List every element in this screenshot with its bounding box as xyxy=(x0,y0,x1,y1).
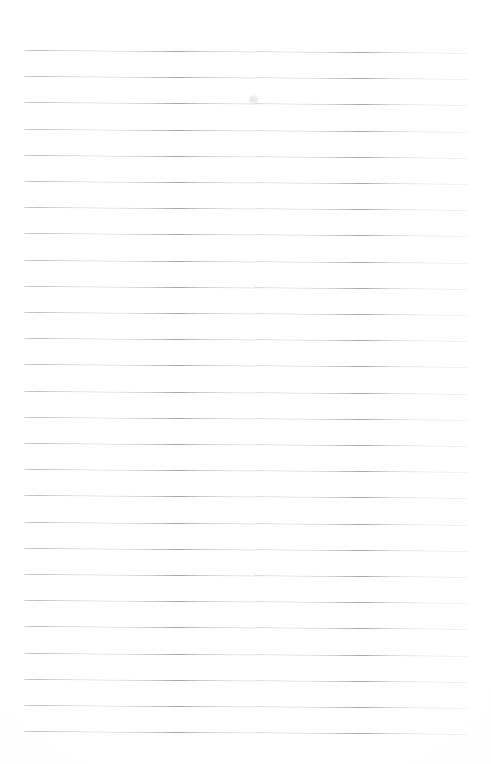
rule-line-11 xyxy=(24,312,468,316)
rule-line-17 xyxy=(24,469,468,473)
rule-line-14 xyxy=(24,391,468,395)
rule-line-9 xyxy=(24,260,468,264)
rule-line-15 xyxy=(24,417,468,421)
rule-line-25 xyxy=(24,679,468,683)
faint-smudge xyxy=(249,96,258,103)
rule-line-1 xyxy=(24,50,468,54)
rule-line-19 xyxy=(24,522,468,526)
rule-line-8 xyxy=(24,233,468,237)
rule-line-21 xyxy=(24,574,468,578)
rule-line-23 xyxy=(24,626,468,630)
ruled-lines-group xyxy=(0,0,491,764)
rule-line-24 xyxy=(24,653,468,657)
rule-line-3 xyxy=(24,102,468,106)
rule-line-13 xyxy=(24,364,468,368)
rule-line-12 xyxy=(24,338,468,342)
rule-line-2 xyxy=(24,76,468,80)
rule-line-4 xyxy=(24,129,468,133)
rule-line-16 xyxy=(24,443,468,447)
rule-line-27 xyxy=(24,731,468,735)
rule-line-26 xyxy=(24,705,468,709)
ruled-paper-page xyxy=(0,0,491,764)
rule-line-20 xyxy=(24,548,468,552)
rule-line-5 xyxy=(24,155,468,159)
rule-line-10 xyxy=(24,286,468,290)
rule-line-7 xyxy=(24,207,468,211)
rule-line-22 xyxy=(24,600,468,604)
rule-line-18 xyxy=(24,495,468,499)
rule-line-6 xyxy=(24,181,468,185)
